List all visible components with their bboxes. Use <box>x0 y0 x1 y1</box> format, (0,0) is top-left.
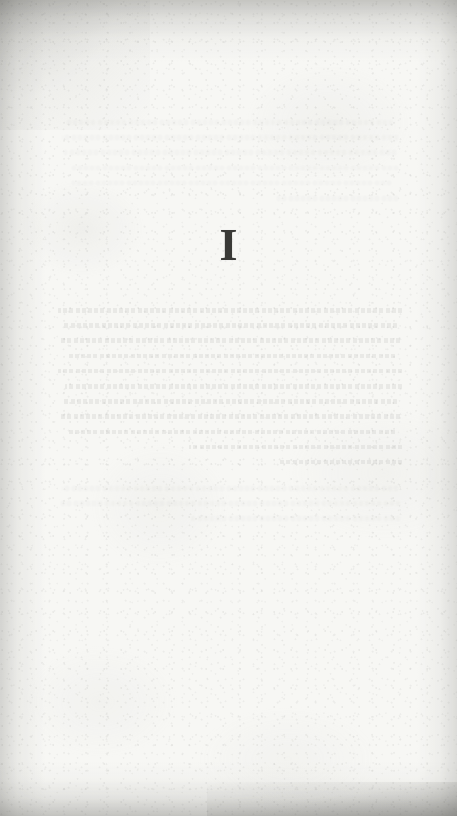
scanned-page: I <box>0 0 457 816</box>
part-numeral-container: I <box>0 222 457 268</box>
scan-shadow-corner-bottom-right <box>207 782 457 816</box>
scan-shadow-right <box>417 0 457 816</box>
part-numeral: I <box>220 222 238 268</box>
scan-shadow-corner-top-left <box>0 0 150 130</box>
